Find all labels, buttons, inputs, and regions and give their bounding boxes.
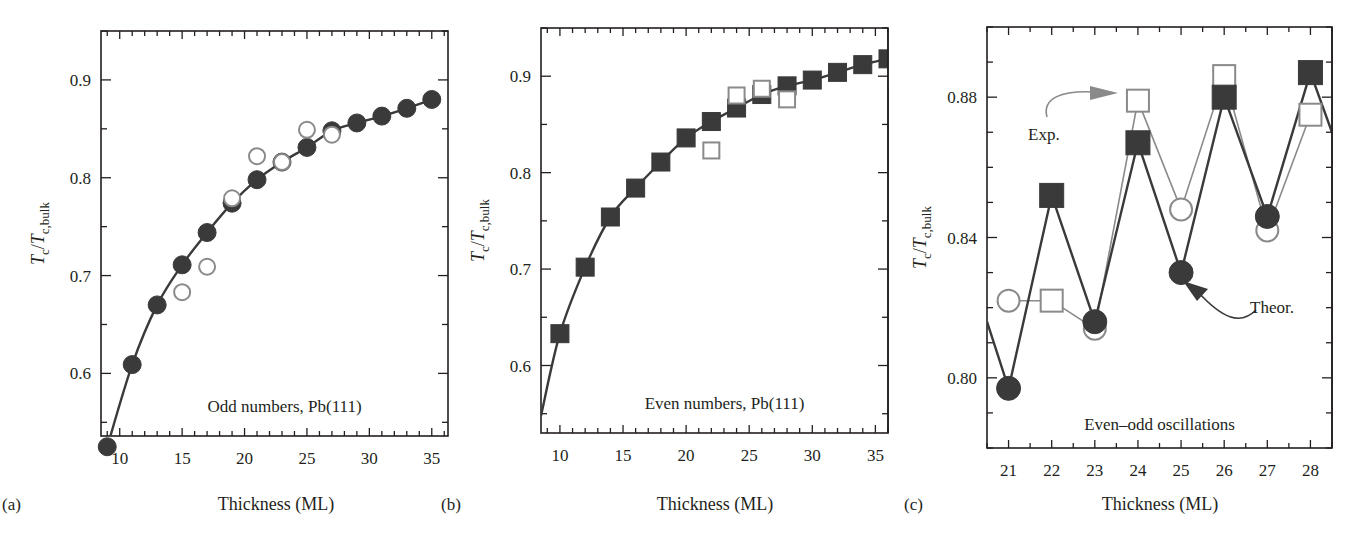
filled-circle-marker	[298, 138, 316, 156]
open-circle-marker	[249, 148, 265, 164]
filled-circle-marker	[1169, 261, 1193, 285]
x-tick-label: 25	[1173, 461, 1190, 480]
y-tick-label: 0.9	[70, 71, 91, 90]
panel-annotation: Even–odd oscillations	[1084, 415, 1235, 434]
theory-line	[987, 73, 1332, 389]
open-square-marker	[1127, 90, 1149, 112]
open-circle-marker	[274, 154, 290, 170]
theory-line	[107, 100, 432, 447]
panel-a-odd-numbers: 1015202530350.60.70.80.9Tc/Tc,bulkThickn…	[2, 31, 448, 515]
panel-letter: (a)	[2, 495, 21, 514]
figure-canvas: 1015202530350.60.70.80.9Tc/Tc,bulkThickn…	[0, 0, 1360, 542]
open-circle-marker	[174, 284, 190, 300]
panel-letter: (b)	[441, 495, 461, 514]
figure: 1015202530350.60.70.80.9Tc/Tc,bulkThickn…	[0, 0, 1360, 542]
filled-circle-marker	[1255, 204, 1279, 228]
y-axis-ticks	[101, 31, 448, 422]
x-tick-label: 27	[1259, 461, 1277, 480]
filled-circle-marker	[98, 438, 116, 456]
x-tick-label: 20	[678, 446, 695, 465]
open-square-marker	[1041, 290, 1063, 312]
filled-circle-marker	[123, 356, 141, 374]
y-tick-label: 0.6	[510, 357, 531, 376]
panel-annotation: Odd numbers, Pb(111)	[207, 397, 361, 416]
x-axis-title: Thickness (ML)	[1102, 494, 1218, 515]
plot-frame	[987, 27, 1332, 448]
open-circle-marker	[324, 127, 340, 143]
open-square-marker	[729, 88, 745, 104]
x-tick-label: 25	[741, 446, 758, 465]
x-tick-label: 28	[1302, 461, 1319, 480]
x-tick-label: 35	[423, 449, 440, 468]
filled-circle-marker	[348, 114, 366, 132]
x-tick-label: 25	[298, 449, 315, 468]
open-square-marker	[779, 91, 795, 107]
edge-mask	[888, 28, 903, 433]
x-tick-label: 21	[1000, 461, 1017, 480]
filled-circle-marker	[148, 296, 166, 314]
y-tick-label: 0.8	[510, 164, 531, 183]
open-circle-marker	[1170, 198, 1192, 220]
y-tick-label: 0.8	[70, 169, 91, 188]
x-tick-label: 10	[551, 446, 568, 465]
filled-square-marker	[702, 113, 720, 131]
x-tick-label: 26	[1216, 461, 1233, 480]
x-axis-title: Thickness (ML)	[218, 494, 334, 515]
filled-square-marker	[854, 56, 872, 74]
x-axis-ticks	[987, 27, 1332, 448]
y-tick-label: 0.80	[947, 369, 977, 388]
exp-arrow-annotation: Exp.	[1028, 86, 1118, 144]
filled-square-marker	[829, 63, 847, 81]
y-axis-title: Tc/Tc,bulk	[468, 199, 492, 262]
x-tick-label: 15	[174, 449, 191, 468]
panel-b-even-numbers: 1015202530350.60.70.80.9Tc/Tc,bulkThickn…	[441, 28, 903, 515]
plot-frame	[541, 28, 888, 433]
open-circle-marker	[299, 122, 315, 138]
open-square-marker	[703, 142, 719, 158]
theor-arrow-annotation: Theor.	[1183, 281, 1294, 318]
filled-circle-marker	[997, 376, 1021, 400]
x-axis-ticks	[107, 31, 444, 436]
open-circle-marker	[199, 259, 215, 275]
filled-square-marker	[1298, 61, 1322, 85]
filled-circle-marker	[248, 171, 266, 189]
panel-letter: (c)	[904, 495, 923, 514]
y-axis-title: Tc/Tc,bulk	[28, 202, 52, 265]
x-tick-label: 20	[236, 449, 253, 468]
y-axis-ticks	[541, 28, 888, 414]
plot-area	[987, 73, 1332, 389]
y-tick-label: 0.7	[70, 267, 92, 286]
theor-label: Theor.	[1250, 298, 1294, 317]
filled-circle-marker	[398, 99, 416, 117]
y-tick-label: 0.84	[947, 229, 977, 248]
y-tick-label: 0.9	[510, 67, 531, 86]
filled-circle-marker	[173, 256, 191, 274]
y-tick-label: 0.88	[947, 88, 977, 107]
y-axis-ticks	[987, 27, 1332, 448]
panel-annotation: Even numbers, Pb(111)	[645, 394, 805, 413]
x-tick-label: 24	[1129, 461, 1147, 480]
open-circle-marker	[224, 190, 240, 206]
filled-square-marker	[1126, 131, 1150, 155]
x-tick-label: 30	[804, 446, 821, 465]
plot-area	[107, 100, 432, 447]
x-tick-label: 30	[361, 449, 378, 468]
panel-c-even-odd-oscillations: 21222324252627280.800.840.88Tc/Tc,bulkTh…	[904, 27, 1332, 515]
open-square-marker	[1213, 65, 1235, 87]
filled-circle-marker	[1083, 310, 1107, 334]
y-axis-title: Tc/Tc,bulk	[910, 206, 934, 269]
exp-label: Exp.	[1028, 125, 1060, 144]
x-tick-label: 35	[867, 446, 884, 465]
filled-square-marker	[1212, 85, 1236, 109]
filled-square-marker	[627, 179, 645, 197]
open-square-marker	[1299, 104, 1321, 126]
filled-square-marker	[677, 129, 695, 147]
x-axis-ticks	[547, 28, 888, 433]
y-tick-label: 0.6	[70, 364, 91, 383]
x-tick-label: 23	[1086, 461, 1103, 480]
open-circle-marker	[998, 290, 1020, 312]
open-square-marker	[754, 81, 770, 97]
filled-square-marker	[803, 71, 821, 89]
plot-frame	[101, 31, 448, 436]
arrow-head-icon	[1090, 86, 1118, 100]
